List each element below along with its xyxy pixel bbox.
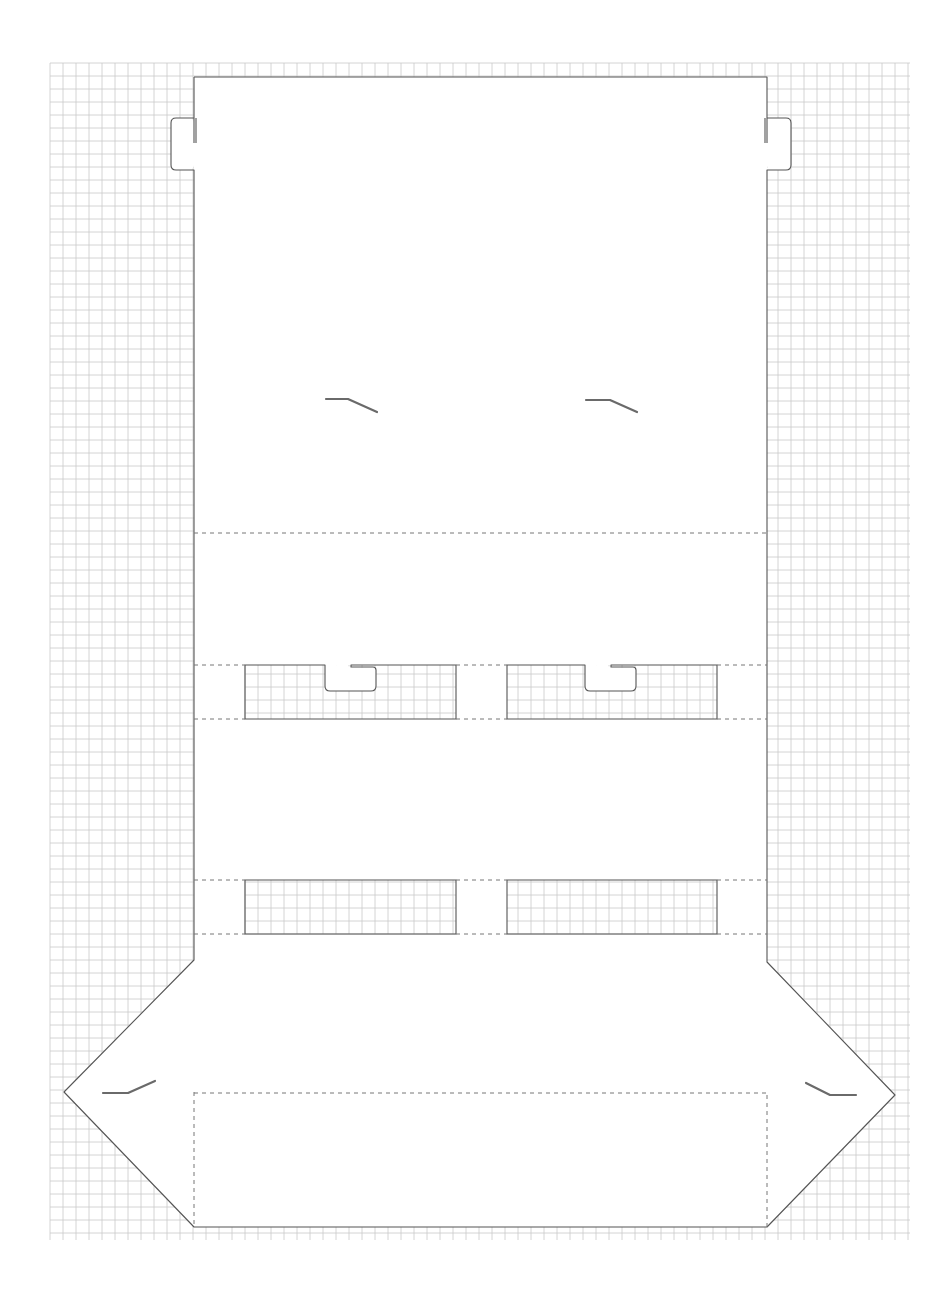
dieline-shapes — [64, 77, 895, 1227]
window-fill — [245, 880, 456, 934]
main-panel — [194, 77, 767, 1227]
tab-left — [171, 118, 194, 170]
dieline-diagram — [0, 0, 952, 1295]
window-fill — [507, 880, 717, 934]
tab-right — [767, 118, 791, 170]
